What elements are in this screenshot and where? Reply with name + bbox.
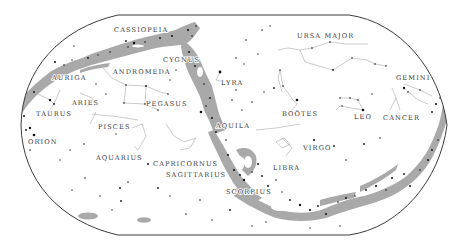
label-scorpius: SCORPIUS (226, 188, 272, 196)
label-gemini: GEMINI (396, 74, 430, 82)
label-aquarius: AQUARIUS (95, 154, 143, 162)
label-bootes: BOÖTES (282, 109, 318, 118)
label-taurus: TAURUS (36, 110, 72, 118)
label-cassiopeia: CASSIOPEIA (114, 26, 168, 34)
label-aries: ARIES (71, 99, 99, 107)
label-ursa-major: URSA MAJOR (297, 32, 354, 40)
label-virgo: VIRGO (302, 144, 332, 152)
label-libra: LIBRA (273, 164, 300, 172)
label-orion: ORION (28, 138, 58, 146)
map-content: CASSIOPEIA CYGNUS URSA MAJOR AURIGA ANDR… (20, 22, 447, 229)
star-map: CASSIOPEIA CYGNUS URSA MAJOR AURIGA ANDR… (0, 0, 467, 249)
label-pisces: PISCES (98, 123, 131, 131)
label-andromeda: ANDROMEDA (112, 68, 171, 76)
label-leo: LEO (354, 113, 372, 121)
label-cancer: CANCER (383, 114, 420, 122)
label-auriga: AURIGA (51, 74, 87, 82)
label-pegasus: PEGASUS (146, 100, 188, 108)
label-aquila: AQUILA (215, 122, 250, 130)
label-lyra: LYRA (221, 79, 243, 87)
label-sagittarius: SAGITTARIUS (166, 171, 226, 179)
label-cygnus: CYGNUS (163, 56, 200, 64)
label-capricornus: CAPRICORNUS (153, 160, 218, 168)
